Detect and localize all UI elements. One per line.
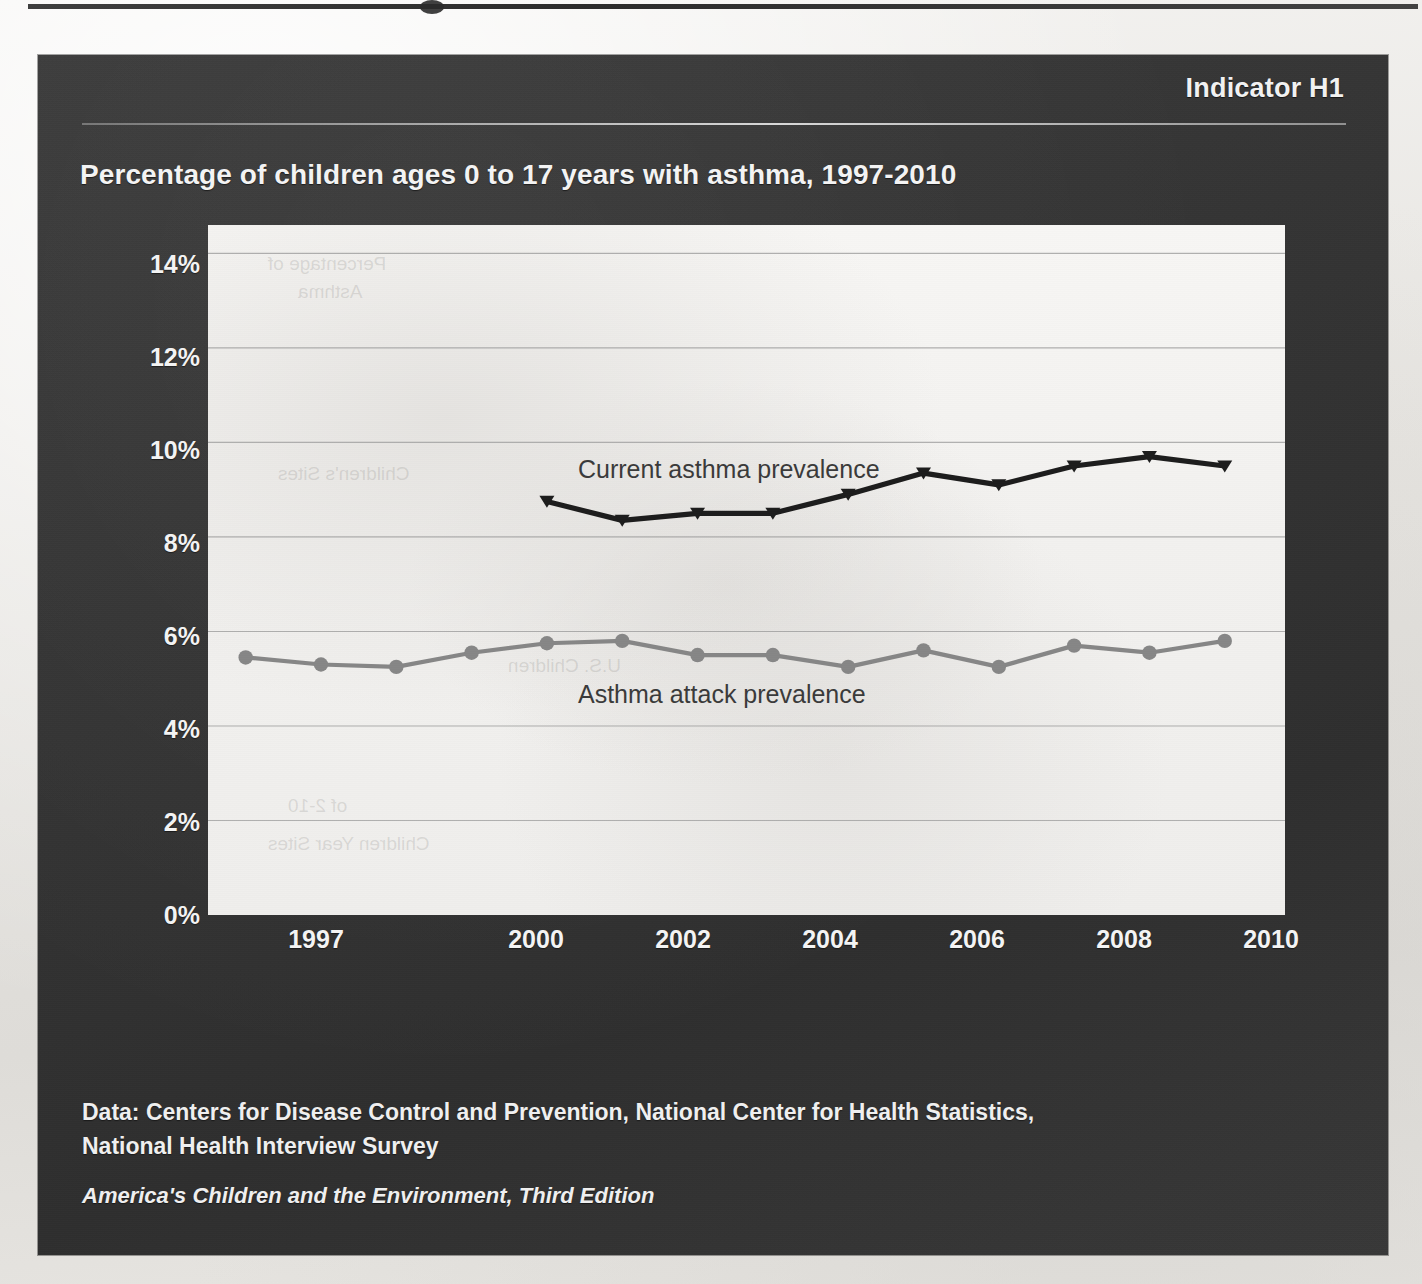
data-point-marker	[314, 657, 328, 671]
x-tick-2006: 2006	[949, 925, 1005, 954]
data-point-marker	[464, 646, 478, 660]
data-point-marker	[238, 650, 252, 664]
x-tick-2002: 2002	[655, 925, 711, 954]
indicator-label: Indicator H1	[1186, 73, 1344, 104]
chart-plot-wrapper: Percentage of Asthma Children's Sites U.…	[208, 225, 1285, 915]
data-point-marker	[1067, 638, 1081, 652]
y-tick-8: 8%	[164, 529, 200, 558]
data-source: Data: Centers for Disease Control and Pr…	[82, 1096, 1312, 1163]
data-point-marker	[1218, 634, 1232, 648]
x-tick-2010: 2010	[1243, 925, 1299, 954]
series-label-asthma-attack-prevalence: Asthma attack prevalence	[578, 680, 866, 709]
page-top-blob-artifact	[420, 0, 444, 14]
y-tick-2: 2%	[164, 808, 200, 837]
data-source-line-1: Data: Centers for Disease Control and Pr…	[82, 1096, 1312, 1129]
header-divider	[82, 123, 1346, 125]
x-tick-1997: 1997	[288, 925, 344, 954]
page-top-edge-artifact	[28, 4, 1418, 9]
publication-edition: America's Children and the Environment, …	[82, 1183, 1312, 1209]
x-tick-2008: 2008	[1096, 925, 1152, 954]
data-point-marker	[690, 648, 704, 662]
y-tick-6: 6%	[164, 622, 200, 651]
chart-title: Percentage of children ages 0 to 17 year…	[80, 159, 1320, 191]
indicator-panel: Indicator H1 Percentage of children ages…	[38, 55, 1388, 1255]
x-tick-2004: 2004	[802, 925, 858, 954]
x-tick-2000: 2000	[508, 925, 564, 954]
y-tick-4: 4%	[164, 715, 200, 744]
chart-svg	[208, 225, 1285, 915]
series-label-current-asthma-prevalence: Current asthma prevalence	[578, 455, 880, 484]
data-point-marker	[992, 660, 1006, 674]
y-tick-10: 10%	[150, 436, 200, 465]
y-tick-14: 14%	[150, 250, 200, 279]
data-point-marker	[615, 634, 629, 648]
data-point-marker	[766, 648, 780, 662]
data-point-marker	[916, 643, 930, 657]
footer: Data: Centers for Disease Control and Pr…	[82, 1096, 1312, 1209]
y-tick-12: 12%	[150, 343, 200, 372]
data-point-marker	[389, 660, 403, 674]
data-point-marker	[540, 636, 554, 650]
data-point-marker	[1142, 646, 1156, 660]
y-tick-0: 0%	[164, 901, 200, 930]
data-source-line-2: National Health Interview Survey	[82, 1130, 1312, 1163]
data-point-marker	[841, 660, 855, 674]
